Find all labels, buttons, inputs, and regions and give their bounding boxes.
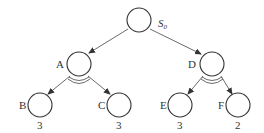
and-arc-d (201, 79, 223, 84)
edge-a-c (88, 76, 110, 94)
node-b (28, 93, 52, 117)
value-e: 3 (177, 119, 183, 131)
node-c (107, 93, 131, 117)
label-f: F (218, 99, 224, 111)
and-arc-d-inner (202, 77, 222, 81)
and-arc-a (68, 79, 90, 84)
node-d (200, 52, 224, 76)
label-e: E (160, 99, 167, 111)
edge-d-f (221, 76, 232, 94)
edge-a-b (48, 76, 70, 94)
edge-d-e (188, 76, 203, 94)
label-d: D (188, 58, 196, 70)
node-s0 (127, 8, 151, 32)
edge-s0-d (150, 29, 201, 54)
node-a (67, 52, 91, 76)
node-f (226, 93, 250, 117)
and-or-tree-diagram: S0 A D B C E F 3 3 3 2 (0, 0, 264, 133)
value-c: 3 (116, 119, 122, 131)
edge-s0-a (89, 29, 128, 53)
value-f: 2 (235, 119, 241, 131)
node-e (168, 93, 192, 117)
and-arc-a-inner (69, 77, 89, 81)
label-s0: S0 (158, 17, 168, 31)
value-b: 3 (37, 119, 43, 131)
label-b: B (19, 99, 26, 111)
label-c: C (98, 99, 105, 111)
label-a: A (56, 58, 64, 70)
